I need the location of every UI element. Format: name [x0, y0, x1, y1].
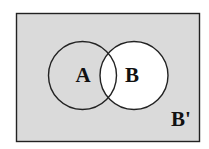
complement-label: B': [171, 107, 191, 131]
set-b-label: B: [125, 63, 139, 87]
venn-diagram: A B B': [0, 0, 209, 149]
venn-svg: A B B': [0, 0, 209, 149]
set-a-label: A: [75, 63, 91, 87]
